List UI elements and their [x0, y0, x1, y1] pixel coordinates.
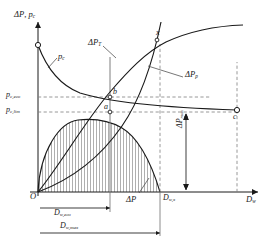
delta-p-hatched-region [38, 119, 160, 192]
dim-label-dw-max-sub: w,max [66, 225, 78, 230]
marker-pc-start [35, 42, 40, 47]
marker-point-a [108, 110, 112, 114]
point-label-x: x [156, 29, 160, 37]
dim-dw-eco [40, 192, 110, 212]
point-label-a-text: a [104, 102, 108, 111]
ytick-pc-eco-sub: c,eco [10, 94, 20, 99]
dim-label-delta-p-max-sub: max [179, 110, 184, 118]
curve-label-delta-p: ΔP [126, 195, 136, 204]
point-label-x-text: x [156, 28, 160, 37]
y-axis-label-second-sub: c [33, 13, 35, 19]
x-axis-label-sub: w [252, 198, 256, 204]
pressure-flow-diagram: ΔP, pc Dw O pc,eco pc,lim pc ΔPT ΔPp ΔP … [0, 0, 271, 248]
y-axis-label: ΔP, pc [14, 10, 35, 20]
diagram-canvas [0, 0, 271, 248]
point-label-a: a [104, 103, 108, 111]
curve-label-delta-p-base: ΔP [126, 194, 136, 204]
dim-label-delta-p-max: ΔPmax [176, 110, 185, 128]
ytick-pc-lim: pc,lim [6, 106, 20, 115]
dim-label-delta-p-max-base: ΔP [175, 118, 184, 128]
point-label-c: c [233, 113, 237, 121]
y-axis-label-main: ΔP [14, 9, 24, 19]
xtick-dwx-sub: w,x [169, 197, 175, 202]
dim-label-dw-eco-sub: w,eco [60, 212, 71, 217]
curve-label-delta-p-t-sub: T [98, 41, 101, 47]
ytick-pc-lim-sub: c,lim [10, 109, 20, 114]
curve-label-delta-p-p: ΔPp [185, 70, 198, 80]
point-label-c-text: c [233, 112, 237, 121]
y-axis-label-sep: , [24, 9, 26, 19]
curve-pc [35, 42, 239, 112]
point-label-b-text: b [113, 87, 117, 96]
origin-text: O [30, 191, 36, 201]
marker-point-x [155, 38, 159, 42]
point-label-b: b [113, 88, 117, 96]
x-axis-label: Dw [246, 195, 256, 205]
leader-delta-p-t [103, 46, 116, 58]
xtick-dwx: Dw,x [163, 194, 175, 203]
curve-label-pc: pc [58, 52, 65, 62]
leader-delta-p-p [148, 66, 183, 77]
curve-label-delta-p-p-sub: p [195, 73, 198, 79]
marker-point-b [108, 95, 112, 99]
curve-label-pc-sub: c [62, 55, 64, 61]
curve-label-delta-p-t: ΔPT [88, 38, 101, 48]
dim-label-dw-max: Dw,max [60, 222, 78, 231]
ytick-pc-eco: pc,eco [6, 91, 20, 100]
curve-label-delta-p-p-base: ΔP [185, 69, 195, 79]
leader-pc [48, 58, 57, 68]
curve-label-delta-p-t-base: ΔP [88, 37, 98, 47]
origin-label: O [30, 192, 36, 201]
dim-label-dw-eco: Dw,eco [54, 209, 71, 218]
